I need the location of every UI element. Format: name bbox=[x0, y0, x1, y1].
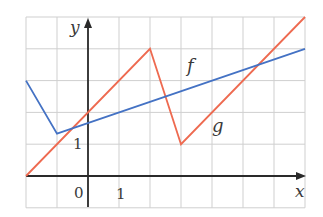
x-axis bbox=[26, 172, 306, 180]
g-curve-label: g bbox=[212, 115, 224, 136]
function-graph: y x 1 0 1 f g bbox=[0, 0, 323, 217]
y-tick-label-1: 1 bbox=[73, 135, 83, 153]
f-curve-label: f bbox=[185, 55, 197, 76]
y-axis-arrow-icon bbox=[84, 18, 92, 28]
y-axis-label: y bbox=[69, 17, 80, 37]
grid-lines bbox=[26, 17, 305, 208]
origin-label: 0 bbox=[74, 184, 84, 202]
x-axis-label: x bbox=[295, 181, 305, 201]
curve-f bbox=[26, 49, 305, 134]
x-tick-label-1: 1 bbox=[116, 185, 126, 203]
